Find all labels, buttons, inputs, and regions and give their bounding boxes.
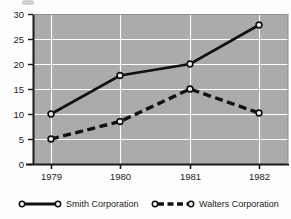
legend-label: Smith Corporation bbox=[66, 199, 139, 209]
y-axis-tick-labels: 051015202530 bbox=[13, 9, 24, 170]
legend-marker bbox=[19, 201, 24, 206]
data-point-marker bbox=[256, 22, 262, 28]
chart-legend: Smith CorporationWalters Corporation bbox=[19, 199, 278, 209]
legend-marker bbox=[188, 201, 193, 206]
x-tick-label: 1981 bbox=[180, 171, 201, 182]
y-tick-label: 0 bbox=[19, 159, 24, 170]
legend-label: Walters Corporation bbox=[199, 199, 279, 209]
legend-entry-2: Walters Corporation bbox=[152, 199, 278, 209]
scan-artifact bbox=[22, 0, 34, 5]
data-point-marker bbox=[48, 111, 54, 117]
data-point-marker bbox=[48, 136, 54, 142]
x-axis-tick-labels: 1979198019811982 bbox=[41, 171, 270, 182]
data-point-marker bbox=[117, 119, 123, 125]
y-tick-label: 5 bbox=[19, 134, 24, 145]
y-axis-ticks bbox=[28, 15, 33, 165]
y-tick-label: 25 bbox=[13, 34, 24, 45]
y-tick-label: 15 bbox=[13, 84, 24, 95]
y-tick-label: 30 bbox=[13, 9, 24, 20]
legend-marker bbox=[55, 201, 60, 206]
x-tick-label: 1979 bbox=[41, 171, 62, 182]
y-tick-label: 10 bbox=[13, 109, 24, 120]
legend-marker bbox=[152, 201, 157, 206]
line-chart-figure: 051015202530 1979198019811982 Smith Corp… bbox=[0, 0, 291, 219]
chart-svg: 051015202530 1979198019811982 Smith Corp… bbox=[0, 0, 291, 219]
data-point-marker bbox=[117, 73, 123, 79]
data-point-marker bbox=[256, 110, 262, 116]
data-point-marker bbox=[187, 61, 193, 67]
legend-entry-1: Smith Corporation bbox=[19, 199, 138, 209]
data-point-marker bbox=[187, 86, 193, 92]
x-tick-label: 1982 bbox=[249, 171, 270, 182]
y-tick-label: 20 bbox=[13, 59, 24, 70]
x-tick-label: 1980 bbox=[110, 171, 131, 182]
